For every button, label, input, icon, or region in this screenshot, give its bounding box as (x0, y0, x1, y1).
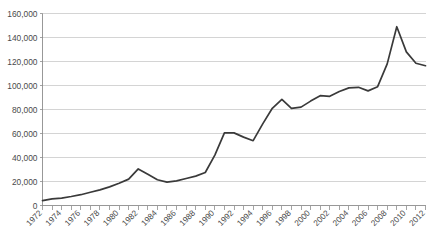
x-tick-label: 1990 (197, 208, 217, 228)
y-axis-tick-labels: 020,00040,00060,00080,000100,000120,0001… (7, 9, 38, 211)
line-chart: 020,00040,00060,00080,000100,000120,0001… (0, 0, 429, 239)
y-tick-label: 120,000 (7, 57, 38, 67)
x-tick-label: 1980 (101, 208, 121, 228)
x-axis-tick-marks (43, 206, 426, 210)
x-tick-label: 1976 (63, 208, 83, 228)
x-tick-label: 2010 (389, 208, 409, 228)
x-tick-label: 1986 (159, 208, 179, 228)
y-tick-label: 60,000 (12, 129, 38, 139)
x-tick-label: 2000 (293, 208, 313, 228)
y-tick-label: 20,000 (12, 177, 38, 187)
x-tick-label: 2002 (312, 208, 332, 228)
chart-canvas: 020,00040,00060,00080,000100,000120,0001… (0, 0, 429, 239)
x-tick-label: 1988 (178, 208, 198, 228)
data-series-line (43, 27, 426, 201)
x-tick-label: 2004 (331, 208, 351, 228)
x-tick-label: 2008 (369, 208, 389, 228)
gridlines (40, 14, 426, 206)
y-tick-label: 40,000 (12, 153, 38, 163)
x-tick-label: 1984 (140, 208, 160, 228)
y-tick-label: 100,000 (7, 81, 38, 91)
x-tick-label: 1972 (25, 208, 45, 228)
x-tick-label: 1992 (216, 208, 236, 228)
x-axis-tick-labels: 1972197419761978198019821984198619881990… (25, 208, 428, 228)
x-tick-label: 2006 (350, 208, 370, 228)
x-tick-label: 1978 (82, 208, 102, 228)
y-tick-label: 80,000 (12, 105, 38, 115)
x-tick-label: 1994 (235, 208, 255, 228)
x-tick-label: 1998 (274, 208, 294, 228)
x-tick-label: 1982 (120, 208, 140, 228)
x-tick-label: 2012 (408, 208, 428, 228)
y-tick-label: 140,000 (7, 33, 38, 43)
y-tick-label: 160,000 (7, 9, 38, 19)
x-tick-label: 1996 (254, 208, 274, 228)
x-tick-label: 1974 (44, 208, 64, 228)
